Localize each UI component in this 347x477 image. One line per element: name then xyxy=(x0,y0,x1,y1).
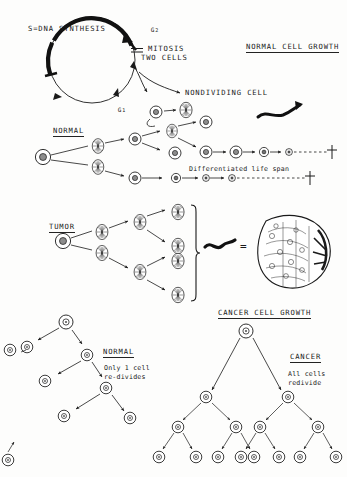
s-phase-label: S=DNA SYNTHESIS xyxy=(28,24,106,33)
brush-arrow-top xyxy=(258,105,300,117)
g2-label: G2 xyxy=(133,18,159,41)
bottom-cancer-heading: CANCER xyxy=(290,352,321,363)
bottom-cancer-line1: All cells xyxy=(288,370,326,378)
tumor-lineage-heading: TUMOR xyxy=(49,222,75,233)
g1-label: G1 xyxy=(100,98,126,121)
two-cells-label: TWO CELLS xyxy=(141,53,188,62)
bottom-normal-line2: re-divides xyxy=(104,373,146,381)
brush-arrow-tumor xyxy=(205,240,235,248)
cycle-daughter-cells xyxy=(147,102,192,126)
diagram-canvas: S=DNA SYNTHESIS G2 G1 MITOSIS TWO CELLS … xyxy=(0,0,347,477)
mitosis-label: MITOSIS xyxy=(148,44,184,53)
bottom-left-extra-cells xyxy=(2,344,26,466)
differentiated-lifespan-label: Differentiated life span xyxy=(189,165,289,173)
bottom-normal-heading: NORMAL xyxy=(103,347,134,358)
bottom-cancer-lineage xyxy=(153,324,342,463)
equals-sign: = xyxy=(240,240,247,254)
bottom-cancer-line2: redivide xyxy=(288,379,321,387)
bottom-normal-line1: Only 1 cell xyxy=(104,364,150,372)
normal-cell-growth-title: NORMAL CELL GROWTH xyxy=(246,42,339,53)
nondividing-cell-label: NONDIVIDING CELL xyxy=(185,88,268,97)
normal-lineage-heading: NORMAL xyxy=(53,126,84,137)
cancer-cell-growth-title: CANCER CELL GROWTH xyxy=(218,308,311,319)
tumor-mass xyxy=(258,215,331,288)
cell-growth-illustration xyxy=(0,0,347,477)
tumor-lineage xyxy=(55,204,200,302)
